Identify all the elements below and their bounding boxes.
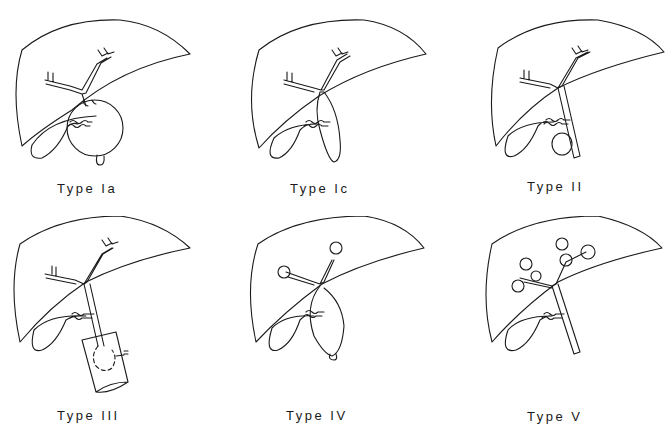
- type-iii-drawing: [0, 216, 224, 432]
- liver-outline: [250, 216, 424, 342]
- cystic-duct: [68, 121, 92, 128]
- liver-outline: [14, 216, 190, 342]
- type-iv-drawing: [224, 216, 448, 432]
- panel-type-ia: Type Ia: [0, 0, 224, 216]
- caption-type-ic: Type Ic: [290, 181, 349, 196]
- hepatic-ducts: [45, 238, 118, 284]
- hepatic-ducts: [45, 48, 114, 106]
- diverticulum: [552, 133, 572, 155]
- fusiform-cyst: [317, 92, 340, 162]
- hepatic-ducts: [520, 46, 590, 88]
- gallbladder: [269, 316, 314, 351]
- duodenum: [82, 332, 128, 392]
- distal-duct: [96, 155, 104, 165]
- caroli-cyst-1: [520, 258, 532, 270]
- gallbladder: [31, 116, 96, 158]
- caption-type-ii: Type II: [527, 179, 584, 194]
- common-bile-duct: [558, 86, 580, 158]
- liver-outline: [486, 216, 662, 342]
- panel-type-ii: Type II: [448, 0, 672, 216]
- liver-outline: [491, 20, 664, 146]
- hepatic-ducts: [520, 252, 586, 288]
- intrahepatic-cyst-left: [278, 266, 290, 278]
- liver-outline: [16, 20, 190, 146]
- panel-type-iii: Type III: [0, 216, 224, 432]
- caroli-cyst-6: [581, 245, 595, 259]
- caroli-cyst-2: [512, 280, 524, 292]
- caption-type-v: Type V: [527, 409, 582, 424]
- caption-type-iii: Type III: [57, 408, 120, 423]
- panel-type-iv: Type IV: [224, 216, 448, 432]
- caption-type-iv: Type IV: [286, 408, 348, 423]
- common-bile-duct: [552, 284, 580, 354]
- panel-type-v: Type V: [448, 216, 672, 432]
- gallbladder: [32, 316, 86, 351]
- caption-type-ia: Type Ia: [57, 181, 117, 196]
- panel-type-ic: Type Ic: [224, 0, 448, 216]
- hepatic-ducts: [284, 48, 350, 92]
- choledochal-cyst: [67, 100, 123, 156]
- choledochocele: [93, 346, 115, 371]
- extrahepatic-cyst: [310, 286, 344, 356]
- caroli-cyst-5: [556, 238, 568, 250]
- duodenal-papilla: [116, 351, 128, 356]
- caroli-cyst-3: [531, 271, 541, 281]
- type-v-drawing: [448, 216, 672, 432]
- intrahepatic-cyst-right: [330, 242, 342, 254]
